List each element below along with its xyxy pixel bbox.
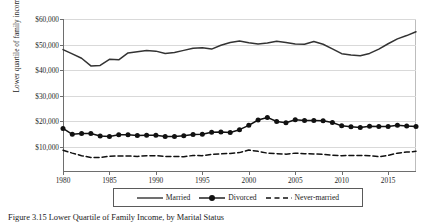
data-point-marker xyxy=(283,120,288,125)
x-axis-tick-label: 1995 xyxy=(195,176,210,185)
y-axis-tick-label: $50,000 xyxy=(35,40,59,49)
x-axis-tick-label: 1985 xyxy=(102,176,117,185)
legend-item-married[interactable]: Married xyxy=(137,193,190,202)
series-line-married xyxy=(63,32,416,66)
series-lines xyxy=(63,19,416,172)
legend-label-never-married: Never-married xyxy=(295,193,340,202)
x-axis-tick-label: 1980 xyxy=(56,176,71,185)
data-point-marker xyxy=(414,124,419,129)
legend-item-divorced[interactable]: Divorced xyxy=(199,193,256,202)
x-axis-tick-label: 2005 xyxy=(288,176,303,185)
legend-label-married: Married xyxy=(166,193,190,202)
data-point-marker xyxy=(274,119,279,124)
y-axis-tick-label: $40,000 xyxy=(35,66,59,75)
marker-line-swatch-icon xyxy=(199,194,225,202)
data-point-marker xyxy=(163,134,168,139)
data-point-marker xyxy=(386,124,391,129)
data-point-marker xyxy=(218,129,223,134)
data-point-marker xyxy=(88,131,93,136)
data-point-marker xyxy=(376,124,381,129)
data-point-marker xyxy=(256,117,261,122)
data-point-marker xyxy=(395,123,400,128)
data-point-marker xyxy=(126,132,131,137)
data-point-marker xyxy=(237,127,242,132)
data-point-marker xyxy=(98,134,103,139)
data-point-marker xyxy=(302,118,307,123)
data-point-marker xyxy=(358,125,363,130)
chart-legend: Married Divorced Never-married xyxy=(113,188,363,207)
x-axis-tick-label: 2015 xyxy=(381,176,396,185)
y-axis-tick-label: $10,000 xyxy=(35,142,59,151)
x-axis-tick-label: 1990 xyxy=(149,176,164,185)
data-point-marker xyxy=(191,132,196,137)
data-point-marker xyxy=(404,124,409,129)
data-point-marker xyxy=(135,133,140,138)
y-axis-label: Lower quartile of family income xyxy=(13,0,21,119)
data-point-marker xyxy=(116,132,121,137)
data-point-marker xyxy=(367,124,372,129)
data-point-marker xyxy=(293,117,298,122)
data-point-marker xyxy=(321,118,326,123)
y-axis-tick-label: $60,000 xyxy=(35,15,59,24)
series-line-divorced xyxy=(63,117,416,136)
figure-caption: Figure 3.15 Lower Quartile of Family Inc… xyxy=(8,212,423,223)
legend-label-divorced: Divorced xyxy=(228,193,256,202)
data-point-marker xyxy=(209,130,214,135)
legend-item-never-married[interactable]: Never-married xyxy=(266,193,340,202)
dashed-line-swatch-icon xyxy=(266,194,292,202)
x-axis-tick-label: 2000 xyxy=(241,176,256,185)
data-point-marker xyxy=(330,120,335,125)
data-point-marker xyxy=(348,124,353,129)
solid-line-swatch-icon xyxy=(137,194,163,202)
data-point-marker xyxy=(200,132,205,137)
data-point-marker xyxy=(181,133,186,138)
y-axis-tick-label: $20,000 xyxy=(35,117,59,126)
data-point-marker xyxy=(311,118,316,123)
series-line-never-married xyxy=(63,150,416,157)
data-point-marker xyxy=(79,131,84,136)
data-point-marker xyxy=(339,123,344,128)
data-point-marker xyxy=(61,126,66,131)
data-point-marker xyxy=(246,123,251,128)
data-point-marker xyxy=(228,130,233,135)
data-point-marker xyxy=(265,115,270,120)
data-point-marker xyxy=(70,132,75,137)
figure-container: Lower quartile of family income $60,000$… xyxy=(0,0,429,224)
y-axis-tick-label: $30,000 xyxy=(35,91,59,100)
data-point-marker xyxy=(144,133,149,138)
data-point-marker xyxy=(107,134,112,139)
data-point-marker xyxy=(153,133,158,138)
plot-area: $60,000$50,000$40,000$30,000$20,000$10,0… xyxy=(63,19,416,172)
x-axis-tick-label: 2010 xyxy=(334,176,349,185)
data-point-marker xyxy=(172,134,177,139)
